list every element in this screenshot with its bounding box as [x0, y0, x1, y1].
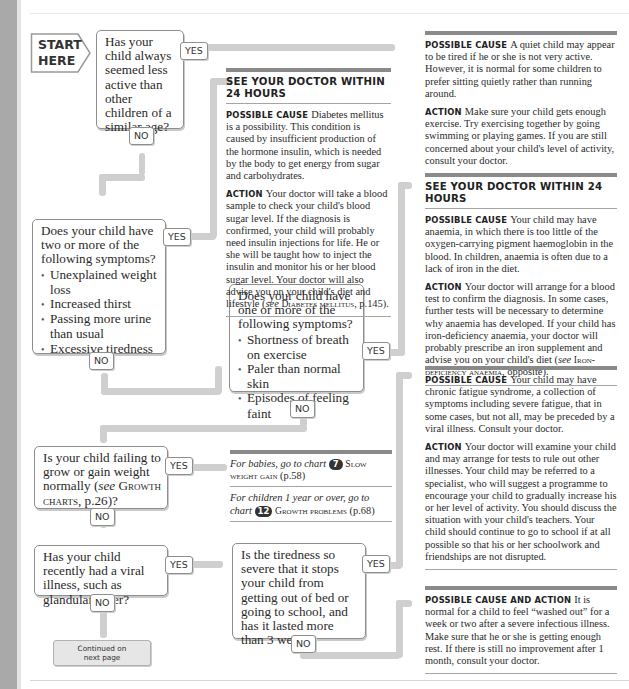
connector-q6-no-top	[396, 600, 412, 607]
diabetes-mellitus-link[interactable]: Diabetes mellitus	[281, 298, 354, 309]
page-side-band	[0, 0, 17, 689]
page-ref: (p.68)	[350, 505, 375, 516]
chart-number-badge: 7	[329, 459, 343, 470]
growth-problems-link[interactable]: Growth problems	[275, 505, 347, 516]
connector-q1-yes	[205, 44, 395, 51]
see-ref: see	[98, 478, 115, 493]
start-here-marker: START HERE	[30, 32, 92, 72]
panel-diabetes: SEE YOUR DOCTOR WITHIN 24 HOURS Possible…	[226, 68, 391, 317]
connector-q6-yes-top	[396, 372, 412, 379]
connector-q2-no-up	[215, 366, 222, 394]
question-text: Has your child always seemed less active…	[105, 34, 172, 134]
continued-label: Continued on	[78, 644, 127, 653]
question-severe-tiredness: Is the tiredness so severe that it stops…	[232, 543, 366, 639]
action-text-end: , p.145).	[354, 298, 389, 309]
connector-q6-no-up	[396, 600, 403, 658]
panel-bar	[230, 450, 392, 454]
q4-no-button[interactable]: NO	[90, 508, 115, 526]
symptom-item: Passing more urine than usual	[41, 312, 159, 341]
connector-q3-no-down	[100, 425, 107, 443]
q5-no-button[interactable]: NO	[90, 594, 115, 612]
action-label: Action	[425, 282, 462, 292]
connector-q3-yes-top	[398, 182, 412, 189]
q3-no-button[interactable]: NO	[290, 400, 315, 418]
action-text: Your doctor will arrange for a blood tes…	[425, 281, 615, 365]
symptom-item: Paler than normal skin	[238, 362, 357, 391]
see-ref: see	[266, 298, 279, 309]
panel-rule	[425, 673, 617, 674]
panel-rule	[226, 316, 391, 317]
symptom-item: Shortness of breath on exercise	[238, 333, 357, 362]
bottom-rule	[30, 680, 629, 681]
connector-q6-no-h	[300, 652, 400, 659]
see-ref: see	[558, 354, 571, 365]
symptom-item: Increased thirst	[41, 297, 159, 312]
q3-yes-button[interactable]: YES	[362, 342, 390, 360]
continued-next-page-button[interactable]: Continued on next page	[53, 640, 151, 666]
continued-label: next page	[84, 653, 121, 662]
possible-cause-and-action-label: Possible cause and action	[425, 595, 571, 605]
symptom-item: Unexplained weight loss	[41, 268, 159, 297]
panel-growth-references: For babies, go to chart 7 Slow weight ga…	[230, 450, 392, 522]
panel-anaemia: SEE YOUR DOCTOR WITHIN 24 HOURS Possible…	[425, 173, 617, 386]
panel-bar	[425, 366, 617, 370]
action-label: Action	[425, 107, 462, 117]
question-diabetes-symptoms: Does your child have two or more of the …	[32, 219, 166, 354]
panel-chronic-fatigue: Possible causeYour child may have chroni…	[425, 366, 617, 570]
question-text: Is the tiredness so severe that it stops…	[241, 547, 349, 647]
question-viral-illness: Has your child recently had a viral illn…	[34, 545, 168, 596]
q1-no-button[interactable]: NO	[129, 127, 154, 145]
action-text: Your doctor will take a blood sample to …	[226, 188, 387, 309]
q6-yes-button[interactable]: YES	[362, 555, 390, 573]
q2-no-button[interactable]: NO	[89, 352, 114, 370]
panel-bar	[226, 68, 391, 72]
connector-q3-no-h	[100, 425, 307, 432]
connector-q2-no-h	[101, 388, 221, 395]
connector-q6-yes-v	[396, 372, 403, 568]
question-less-active: Has your child always seemed less active…	[96, 30, 184, 129]
panel-washed-out: Possible cause and actionIt is normal fo…	[425, 586, 617, 674]
chart-number-badge: 12	[255, 506, 273, 517]
question-text: Does your child have two or more of the …	[41, 223, 156, 266]
start-here-label: START HERE	[38, 37, 82, 69]
panel-bar	[425, 173, 617, 177]
panel-bar	[425, 586, 617, 590]
symptom-list: Unexplained weight loss Increased thirst…	[41, 268, 159, 357]
action-label: Action	[425, 442, 462, 452]
action-label: Action	[226, 189, 263, 199]
possible-cause-label: Possible cause	[226, 110, 308, 120]
panel-quiet-child: Possible causeA quiet child may appear t…	[425, 31, 617, 174]
question-text-end: , p.26)?	[78, 493, 118, 508]
q5-yes-button[interactable]: YES	[165, 556, 193, 574]
top-rule	[30, 13, 629, 14]
urgent-heading: SEE YOUR DOCTOR WITHIN 24 HOURS	[226, 76, 391, 104]
question-growth: Is your child failing to grow or gain we…	[34, 446, 168, 509]
page-side-band-inner	[17, 0, 21, 689]
babies-text: For babies, go to chart	[230, 458, 326, 469]
connector-q2-yes-v	[210, 78, 217, 238]
action-text: Your doctor will examine your child and …	[425, 441, 617, 562]
possible-cause-label: Possible cause	[425, 215, 507, 225]
connector-q4-yes	[187, 464, 227, 471]
connector-q1-no	[139, 153, 145, 175]
q2-yes-button[interactable]: YES	[163, 228, 191, 246]
q6-no-button[interactable]: NO	[291, 635, 316, 653]
connector-q3-yes-v	[398, 182, 405, 356]
possible-cause-label: Possible cause	[425, 40, 507, 50]
urgent-heading: SEE YOUR DOCTOR WITHIN 24 HOURS	[425, 181, 617, 209]
page-ref: (p.58)	[280, 470, 305, 481]
connector-q1-no-v2	[99, 174, 106, 196]
q1-yes-button[interactable]: YES	[180, 42, 208, 60]
panel-rule	[230, 486, 392, 487]
panel-bar	[425, 31, 617, 35]
q4-yes-button[interactable]: YES	[165, 457, 193, 475]
possible-cause-label: Possible cause	[425, 375, 507, 385]
panel-rule	[425, 569, 617, 570]
panel-rule	[230, 521, 392, 522]
